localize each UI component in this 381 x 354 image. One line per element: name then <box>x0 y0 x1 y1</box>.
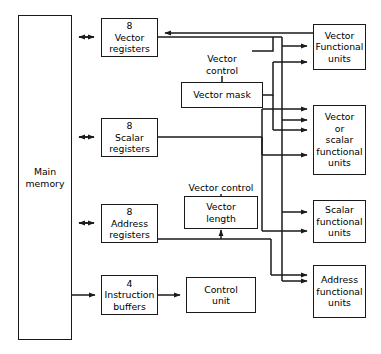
block-vector-mask-label: Vector mask <box>193 89 251 100</box>
block-vector-registers: 8 Vector registers <box>101 18 158 57</box>
block-scalar-functional-units: Scalar functional units <box>313 200 366 243</box>
block-control-unit-label: Control unit <box>204 284 238 307</box>
block-instruction-buffers: 4 Instruction buffers <box>101 275 158 315</box>
block-main-memory: Main memory <box>18 15 72 340</box>
block-address-registers: 8 Address registers <box>101 204 158 243</box>
block-address-functional-units-label: Address functional units <box>316 274 362 308</box>
label-vector-control-mask: Vector control <box>192 42 252 76</box>
block-main-memory-label: Main memory <box>26 166 65 189</box>
block-vector-functional-units-label: Vector Functional units <box>316 30 364 64</box>
block-vector-length-label: Vector length <box>206 201 236 224</box>
block-address-registers-label: 8 Address registers <box>109 206 150 240</box>
block-scalar-registers-label: 8 Scalar registers <box>109 120 150 154</box>
block-scalar-functional-units-label: Scalar functional units <box>316 204 362 238</box>
block-control-unit: Control unit <box>186 277 256 313</box>
label-vector-control-mask-text: Vector control <box>206 53 238 75</box>
block-vector-or-scalar-functional-units: Vector or scalar functional units <box>313 105 366 175</box>
block-vector-mask: Vector mask <box>181 82 263 108</box>
block-address-functional-units: Address functional units <box>313 265 366 318</box>
block-scalar-registers: 8 Scalar registers <box>101 118 158 157</box>
vector-processor-block-diagram: Main memory 8 Vector registers 8 Scalar … <box>0 0 381 354</box>
label-vector-control-length: Vector control <box>181 171 261 194</box>
block-vector-length: Vector length <box>184 196 258 229</box>
block-vector-functional-units: Vector Functional units <box>313 24 366 70</box>
block-vector-registers-label: 8 Vector registers <box>109 20 150 54</box>
label-vector-control-length-text: Vector control <box>189 182 254 193</box>
block-instruction-buffers-label: 4 Instruction buffers <box>105 278 155 312</box>
block-vector-or-scalar-functional-units-label: Vector or scalar functional units <box>316 111 362 168</box>
